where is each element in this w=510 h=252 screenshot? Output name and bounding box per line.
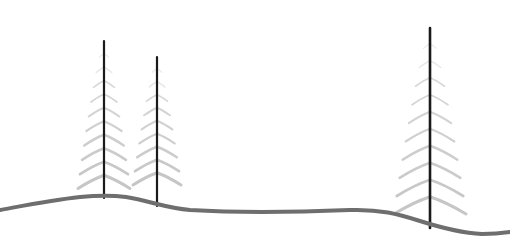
background bbox=[0, 0, 510, 252]
illustration-canvas bbox=[0, 0, 510, 252]
landscape-drawing bbox=[0, 0, 510, 252]
